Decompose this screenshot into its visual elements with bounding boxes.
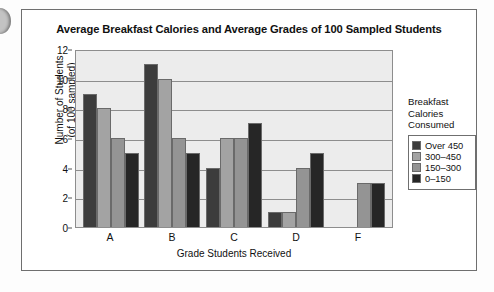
x-axis-tick-labels: ABCDF: [75, 231, 393, 243]
legend-item[interactable]: 300–450: [412, 152, 471, 162]
bar-group-c: [203, 51, 265, 227]
legend-color-swatch: [412, 163, 421, 172]
legend: BreakfastCaloriesConsumed Over 450300–45…: [408, 96, 478, 190]
bar: [186, 153, 200, 227]
bar-group-a: [80, 51, 142, 227]
bar: [357, 183, 371, 228]
x-axis-tick-label: F: [327, 231, 389, 243]
page-punch-hole-artifact: [0, 8, 11, 34]
y-axis-tick-mark: [68, 228, 72, 229]
y-axis-tick-mark: [68, 79, 72, 80]
y-axis-tick-mark: [68, 198, 72, 199]
bar-group-f: [326, 51, 388, 227]
x-axis-tick-label: D: [265, 231, 327, 243]
legend-title: BreakfastCaloriesConsumed: [408, 96, 478, 131]
bar: [296, 168, 310, 227]
plot-area: [75, 50, 393, 228]
bar: [97, 108, 111, 227]
y-axis-tick-label: 12: [57, 45, 68, 56]
x-axis-tick-label: B: [141, 231, 203, 243]
legend-item-label: 300–450: [425, 152, 461, 162]
legend-color-swatch: [412, 174, 421, 183]
bar: [248, 123, 262, 227]
x-axis-title: Grade Students Received: [75, 248, 393, 259]
legend-title-line: Calories: [408, 108, 478, 120]
bar: [172, 138, 186, 227]
y-axis-tick-mark: [68, 168, 72, 169]
chart-figure-frame: Average Breakfast Calories and Average G…: [21, 9, 477, 271]
bar: [268, 212, 282, 227]
x-axis-tick-label: C: [203, 231, 265, 243]
legend-item[interactable]: 150–300: [412, 163, 471, 173]
bar-group-d: [265, 51, 327, 227]
legend-item-label: Over 450: [425, 141, 463, 151]
y-axis-tick-mark: [68, 109, 72, 110]
bar: [310, 153, 324, 227]
legend-title-line: Consumed: [408, 119, 478, 131]
legend-color-swatch: [412, 141, 421, 150]
y-axis-tick-mark: [68, 50, 72, 51]
y-axis-tick-labels: 024681012: [46, 50, 72, 228]
legend-color-swatch: [412, 152, 421, 161]
legend-item[interactable]: Over 450: [412, 141, 471, 151]
legend-item-label: 150–300: [425, 163, 461, 173]
y-axis-tick-label: 10: [57, 74, 68, 85]
bar: [125, 153, 139, 227]
bar: [371, 183, 385, 228]
bar-group-b: [142, 51, 204, 227]
bar: [111, 138, 125, 227]
bar: [220, 138, 234, 227]
legend-item-label: 0–150: [425, 174, 451, 184]
legend-entries-box: Over 450300–450150–3000–150: [408, 135, 476, 190]
bar: [144, 64, 158, 227]
bar: [158, 79, 172, 227]
y-axis-tick-mark: [68, 139, 72, 140]
legend-title-line: Breakfast: [408, 96, 478, 108]
bar: [83, 94, 97, 228]
bar: [282, 212, 296, 227]
chart-title: Average Breakfast Calories and Average G…: [22, 23, 476, 35]
bar-groups-container: [76, 51, 392, 227]
bar: [206, 168, 220, 227]
bar: [234, 138, 248, 227]
x-axis-tick-label: A: [79, 231, 141, 243]
legend-item[interactable]: 0–150: [412, 174, 471, 184]
